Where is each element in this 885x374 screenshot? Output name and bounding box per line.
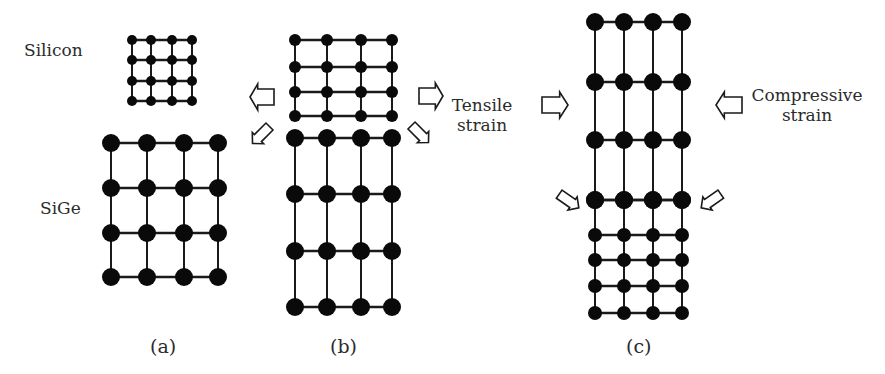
- atom: [615, 13, 633, 31]
- atom: [646, 228, 660, 242]
- compressive-strain-label: Compressive strain: [748, 85, 866, 125]
- strained-sige-lattice: [586, 13, 691, 209]
- atom: [352, 185, 370, 203]
- panel-b: [286, 34, 401, 316]
- caption-c: (c): [626, 336, 651, 356]
- atom: [673, 191, 691, 209]
- atom: [355, 61, 367, 73]
- tensile-strain-label: Tensile strain: [447, 95, 517, 135]
- silicon-substrate-lattice: [586, 191, 691, 320]
- atom: [321, 61, 333, 73]
- sige-lattice: [102, 134, 227, 286]
- atom: [289, 110, 301, 122]
- atom: [644, 73, 662, 91]
- panel-c: [586, 13, 691, 320]
- atom: [175, 224, 193, 242]
- atom: [289, 61, 301, 73]
- atom: [187, 76, 197, 86]
- panel-a: [102, 35, 227, 286]
- compressive-right-arrow-icon: [542, 92, 568, 118]
- atom: [386, 110, 398, 122]
- atom: [386, 34, 398, 46]
- atom: [586, 73, 604, 91]
- atom: [675, 253, 689, 267]
- atom: [615, 73, 633, 91]
- atom: [209, 268, 227, 286]
- atom: [355, 34, 367, 46]
- atom: [187, 55, 197, 65]
- atom: [318, 185, 336, 203]
- atom: [386, 86, 398, 98]
- atom: [318, 242, 336, 260]
- atom: [615, 191, 633, 209]
- atom: [321, 110, 333, 122]
- atom: [102, 224, 120, 242]
- atom: [146, 76, 156, 86]
- atom: [127, 55, 137, 65]
- silicon-label: Silicon: [24, 40, 83, 60]
- tensile-down-right-arrow-icon: [406, 120, 434, 148]
- atom: [675, 279, 689, 293]
- silicon-lattice: [127, 35, 197, 106]
- atom: [138, 134, 156, 152]
- atom: [617, 306, 631, 320]
- atom: [175, 179, 193, 197]
- atom: [673, 73, 691, 91]
- sige-label: SiGe: [40, 198, 81, 218]
- atom: [138, 179, 156, 197]
- atom: [588, 253, 602, 267]
- atom: [318, 298, 336, 316]
- caption-a: (a): [150, 336, 176, 356]
- compressive-label-line1: Compressive: [748, 85, 866, 105]
- atom: [617, 279, 631, 293]
- strain-lattice-diagram: [0, 0, 885, 374]
- atom: [386, 61, 398, 73]
- atom: [673, 13, 691, 31]
- atom: [586, 13, 604, 31]
- atom: [646, 279, 660, 293]
- atom: [383, 242, 401, 260]
- atom: [586, 191, 604, 209]
- atom: [617, 253, 631, 267]
- atom: [675, 228, 689, 242]
- atom: [138, 268, 156, 286]
- atom: [644, 13, 662, 31]
- compressive-down-right-arrow-icon: [555, 188, 584, 215]
- atom: [146, 55, 156, 65]
- atom: [673, 131, 691, 149]
- atom: [355, 110, 367, 122]
- atom: [102, 134, 120, 152]
- atom: [646, 253, 660, 267]
- atom: [102, 268, 120, 286]
- atom: [167, 35, 177, 45]
- atom: [209, 224, 227, 242]
- tensile-label-line2: strain: [447, 115, 517, 135]
- atom: [187, 96, 197, 106]
- atom: [617, 228, 631, 242]
- atom: [209, 134, 227, 152]
- atom: [127, 76, 137, 86]
- tensile-down-left-arrow-icon: [247, 121, 275, 149]
- tensile-right-arrow-icon: [419, 83, 443, 109]
- atom: [146, 35, 156, 45]
- atom: [209, 179, 227, 197]
- atom: [167, 76, 177, 86]
- strained-silicon-lattice: [289, 34, 398, 122]
- atom: [146, 96, 156, 106]
- atom: [321, 86, 333, 98]
- atom: [187, 35, 197, 45]
- atom: [644, 131, 662, 149]
- caption-b: (b): [330, 336, 357, 356]
- atom: [383, 129, 401, 147]
- atom: [127, 35, 137, 45]
- atom: [286, 242, 304, 260]
- atom: [588, 306, 602, 320]
- compressive-left-arrow-icon: [716, 92, 742, 118]
- atom: [167, 55, 177, 65]
- atom: [102, 179, 120, 197]
- atom: [383, 185, 401, 203]
- atom: [167, 96, 177, 106]
- atom: [355, 86, 367, 98]
- atom: [352, 242, 370, 260]
- atom: [286, 129, 304, 147]
